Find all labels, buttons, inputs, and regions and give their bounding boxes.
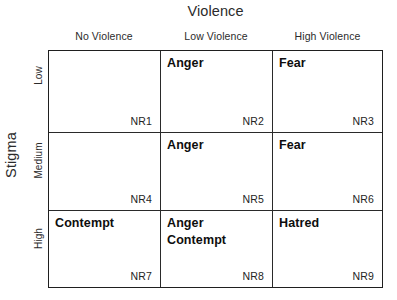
cell-code-label: NR6 (352, 193, 374, 205)
cell-emotion-label-secondary: Contempt (167, 232, 266, 249)
cell-emotion-label: Anger (167, 55, 266, 72)
cell-code-label: NR2 (242, 115, 264, 127)
matrix-cell-nr1: NR1 (49, 51, 161, 133)
column-header-low-violence: Low Violence (160, 29, 272, 47)
cell-code-label: NR5 (242, 193, 264, 205)
cell-code-label: NR8 (242, 270, 264, 282)
matrix-cell-nr4: NR4 (49, 133, 161, 211)
cell-emotion-label: Contempt (55, 215, 154, 232)
cell-emotion-list: Contempt (55, 215, 154, 232)
row-header-low: Low (33, 45, 44, 107)
matrix-cell-nr7: Contempt NR7 (49, 211, 161, 287)
column-header-high-violence: High Violence (272, 29, 383, 47)
cell-emotion-label: Anger (167, 137, 266, 154)
row-axis-title: Stigma (3, 120, 19, 190)
cell-emotion-list: Fear (279, 55, 376, 72)
row-header-high: High (33, 208, 44, 270)
cell-code-label: NR7 (130, 270, 152, 282)
column-header-no-violence: No Violence (48, 29, 160, 47)
matrix-cell-nr3: Fear NR3 (273, 51, 382, 133)
column-header-row: No Violence Low Violence High Violence (48, 29, 383, 47)
cell-emotion-list: Fear (279, 137, 376, 154)
cell-emotion-label: Anger (167, 215, 266, 232)
cell-code-label: NR4 (130, 193, 152, 205)
matrix-cell-nr6: Fear NR6 (273, 133, 382, 211)
matrix-cell-nr2: Anger NR2 (161, 51, 273, 133)
cell-emotion-list: Anger (167, 55, 266, 72)
cell-code-label: NR9 (352, 270, 374, 282)
cell-emotion-list: Anger (167, 137, 266, 154)
cell-code-label: NR1 (130, 115, 152, 127)
matrix-cell-nr9: Hatred NR9 (273, 211, 382, 287)
cell-emotion-label: Hatred (279, 215, 376, 232)
cell-emotion-list: Hatred (279, 215, 376, 232)
stigma-violence-matrix: NR1 Anger NR2 Fear NR3 NR4 Anger NR5 Fea… (48, 50, 383, 288)
column-axis-title: Violence (48, 3, 383, 19)
matrix-cell-nr5: Anger NR5 (161, 133, 273, 211)
cell-emotion-label: Fear (279, 137, 376, 154)
cell-emotion-list: Anger Contempt (167, 215, 266, 249)
matrix-cell-nr8: Anger Contempt NR8 (161, 211, 273, 287)
cell-emotion-label: Fear (279, 55, 376, 72)
row-header-medium: Medium (33, 130, 44, 192)
cell-code-label: NR3 (352, 115, 374, 127)
